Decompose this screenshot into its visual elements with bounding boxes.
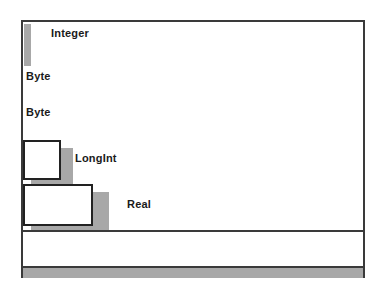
plot-area: Integer Byte Byte LongInt [23, 22, 363, 276]
footer-gray-band [23, 266, 363, 278]
bar-label-real: Real [127, 198, 151, 210]
chart-screenshot: Integer Byte Byte LongInt [0, 0, 384, 288]
bar-longint [23, 140, 61, 180]
bar-label-longint: LongInt [75, 152, 117, 164]
bar-label-byte-1: Byte [26, 70, 51, 82]
bar-label-integer: Integer [51, 27, 89, 39]
footer-band [23, 232, 363, 266]
bar-real [23, 184, 93, 226]
bar-label-byte-2: Byte [26, 106, 51, 118]
bar-integer [24, 24, 31, 66]
chart-frame: Integer Byte Byte LongInt [21, 20, 365, 278]
